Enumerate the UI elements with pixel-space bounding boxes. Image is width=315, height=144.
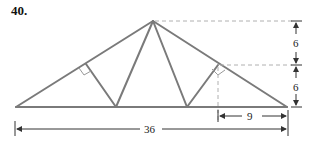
height-dimension [291, 21, 302, 107]
left-web-outer [86, 64, 116, 107]
right-top-chord [153, 21, 287, 107]
left-web-inner [116, 21, 153, 107]
offset-dimension [218, 110, 288, 136]
span-label: 36 [144, 123, 156, 135]
lower-height-label: 6 [293, 81, 299, 93]
left-top-chord [16, 21, 153, 107]
right-web-inner [153, 21, 187, 107]
truss-diagram: 6 6 9 36 [0, 0, 315, 144]
truss-members [16, 21, 287, 107]
upper-height-label: 6 [293, 37, 299, 49]
right-angle-markers [79, 68, 225, 75]
offset-label: 9 [247, 110, 253, 122]
right-web-outer [187, 65, 218, 107]
